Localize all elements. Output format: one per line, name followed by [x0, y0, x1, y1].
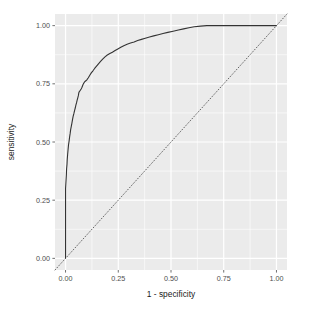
x-tick-label: 0.25	[111, 274, 125, 283]
y-axis-title: sensitivity	[6, 123, 16, 160]
y-tick-label: 0.75	[36, 79, 50, 88]
y-tick-label: 0.25	[36, 196, 50, 205]
y-tick-label: 0.50	[36, 138, 50, 147]
x-axis-title: 1 - specificity	[147, 289, 196, 299]
roc-chart-canvas: 0.000.250.500.751.00 0.000.250.500.751.0…	[0, 0, 310, 310]
x-tick-label: 1.00	[269, 274, 283, 283]
x-tick-label: 0.75	[217, 274, 231, 283]
roc-plot-figure: 0.000.250.500.751.00 0.000.250.500.751.0…	[0, 0, 310, 310]
y-tick-label: 1.00	[36, 21, 50, 30]
x-tick-label: 0.50	[164, 274, 178, 283]
x-tick-label: 0.00	[59, 274, 73, 283]
y-tick-label: 0.00	[36, 254, 50, 263]
